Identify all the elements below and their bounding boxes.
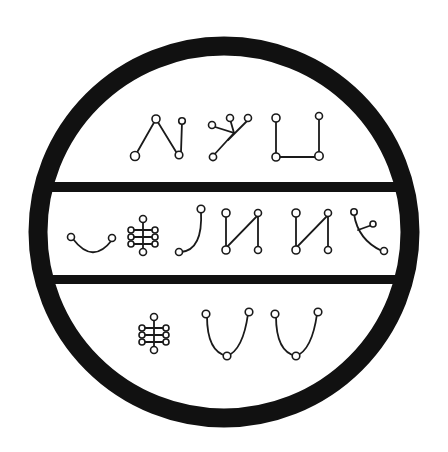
glyph-node: [140, 249, 147, 256]
branch-arc-glyph: [351, 209, 388, 255]
glyph-node: [316, 113, 323, 120]
glyph-node: [271, 310, 279, 318]
glyph-node: [131, 152, 140, 161]
glyph-node: [179, 118, 186, 125]
glyph-node: [314, 308, 322, 316]
zigzag-glyph: [222, 209, 262, 254]
glyph-node: [202, 310, 210, 318]
glyph-node: [255, 247, 262, 254]
glyph-node: [315, 152, 323, 160]
glyph-node: [163, 332, 169, 338]
glyph-node: [381, 248, 388, 255]
glyph-node: [128, 227, 134, 233]
glyph-node: [163, 339, 169, 345]
glyph-node: [255, 210, 262, 217]
bottom-row: [139, 308, 322, 360]
glyph-node: [152, 227, 158, 233]
zigzag-glyph: [292, 209, 332, 254]
glyph-node: [209, 153, 216, 160]
hook-glyph: [176, 205, 205, 255]
glyph-layer: [68, 113, 388, 360]
cup-square-glyph: [272, 113, 323, 162]
smile-arc-glyph: [68, 234, 116, 253]
lower-divider-bar: [45, 275, 403, 284]
glyph-node: [128, 234, 134, 240]
glyph-node: [151, 314, 158, 321]
chevron-glyph: [131, 115, 186, 161]
glyph-node: [140, 216, 147, 223]
glyph-node: [209, 122, 216, 129]
glyph-node: [68, 234, 75, 241]
glyph-node: [272, 114, 280, 122]
u-curve-glyph: [202, 308, 253, 360]
glyph-node: [163, 325, 169, 331]
glyph-node: [152, 241, 158, 247]
sigil-diagram: [0, 0, 448, 452]
glyph-node: [292, 209, 300, 217]
glyph-node: [325, 247, 332, 254]
glyph-node: [128, 241, 134, 247]
glyph-node: [152, 234, 158, 240]
glyph-node: [222, 246, 230, 254]
ladder-glyph: [128, 216, 158, 256]
glyph-node: [139, 325, 145, 331]
glyph-node: [223, 352, 231, 360]
glyph-node: [370, 221, 376, 227]
glyph-node: [175, 151, 183, 159]
glyph-node: [176, 249, 183, 256]
glyph-node: [245, 115, 252, 122]
glyph-node: [139, 332, 145, 338]
glyph-node: [197, 205, 205, 213]
glyph-node: [222, 209, 230, 217]
u-curve-glyph: [271, 308, 322, 360]
glyph-node: [292, 352, 300, 360]
sigil-svg: [0, 0, 448, 452]
glyph-node: [292, 246, 300, 254]
glyph-node: [152, 115, 160, 123]
glyph-node: [139, 339, 145, 345]
glyph-node: [272, 153, 280, 161]
glyph-node: [351, 209, 357, 215]
glyph-node: [325, 210, 332, 217]
glyph-node: [245, 308, 253, 316]
top-row: [131, 113, 324, 162]
upper-divider-bar: [45, 182, 407, 192]
glyph-node: [109, 235, 116, 242]
fork-glyph: [209, 115, 252, 161]
outer-ring: [38, 46, 410, 418]
glyph-node: [227, 115, 234, 122]
middle-row: [68, 205, 388, 255]
glyph-node: [151, 347, 158, 354]
ladder-glyph: [139, 314, 169, 354]
